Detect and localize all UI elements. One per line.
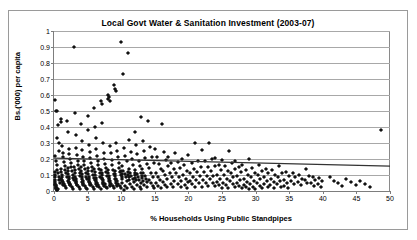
y-tick-label: 0 [46,188,50,195]
gridline [54,95,390,96]
scatter-point [101,141,105,145]
gridline [54,127,390,128]
scatter-point [363,182,367,186]
scatter-point [358,179,362,183]
gridline [54,31,390,32]
x-tick-label: 40 [319,195,327,202]
scatter-point [298,182,302,186]
x-tick-label: 0 [52,195,56,202]
x-tick-label: 15 [151,195,159,202]
chart-title: Local Govt Water & Sanitation Investment… [9,18,407,28]
x-tick-mark [88,191,89,194]
scatter-point [378,128,382,132]
scatter-point [102,157,106,161]
scatter-point [137,158,141,162]
y-tick-label: 1 [46,28,50,35]
x-axis-title: % Households Using Public Standpipes [53,214,389,223]
scatter-point [260,186,264,190]
scatter-point [139,187,143,191]
scatter-point [85,114,89,118]
scatter-point [100,102,104,106]
scatter-point [196,159,200,163]
scatter-point [171,185,175,189]
y-tick-mark [51,79,54,80]
x-tick-label: 50 [386,195,394,202]
scatter-point [206,165,210,169]
scatter-point [202,170,206,174]
scatter-point [146,118,150,122]
scatter-point [109,151,113,155]
x-tick-label: 30 [252,195,260,202]
scatter-point [100,121,104,125]
x-tick-mark [323,191,324,194]
scatter-point [132,187,136,191]
x-tick-mark [390,191,391,194]
x-tick-mark [289,191,290,194]
y-tick-label: 0.9 [40,44,50,51]
scatter-point [220,186,224,190]
x-tick-label: 5 [86,195,90,202]
scatter-point [145,185,149,189]
scatter-point [344,177,348,181]
scatter-point [218,176,222,180]
scatter-point [75,153,79,157]
scatter-point [239,170,243,174]
scatter-point [122,146,126,150]
scatter-point [124,159,128,163]
scatter-point [139,115,143,119]
y-axis-title: Bs.('000) per capita [13,111,22,121]
scatter-point [142,149,146,153]
scatter-point [164,176,168,180]
scatter-point [227,149,231,153]
y-tick-mark [51,63,54,64]
x-tick-mark [54,191,55,194]
scatter-point [277,164,281,168]
scatter-point [320,179,324,183]
scatter-point [339,184,343,188]
scatter-point [173,151,177,155]
scatter-point [92,187,96,191]
gridline [54,47,390,48]
gridline [54,111,390,112]
scatter-point [60,144,64,148]
y-tick-label: 0.5 [40,108,50,115]
scatter-point [114,141,118,145]
scatter-point [73,133,77,137]
scatter-point [284,170,288,174]
y-tick-mark [51,31,54,32]
x-tick-mark [121,191,122,194]
scatter-point [165,185,169,189]
scatter-point [286,174,290,178]
scatter-point [249,175,253,179]
scatter-point [258,177,262,181]
scatter-point [115,149,119,153]
scatter-point [108,98,112,102]
scatter-point [92,106,96,110]
scatter-point [130,157,134,161]
x-tick-label: 45 [352,195,360,202]
gridline [54,79,390,80]
scatter-point [95,154,99,158]
scatter-point [133,130,137,134]
scatter-point [206,141,210,145]
scatter-point [135,152,139,156]
scatter-point [53,154,57,158]
scatter-point [78,186,82,190]
scatter-point [64,186,68,190]
y-tick-mark [51,143,54,144]
scatter-point [243,168,247,172]
scatter-point [131,162,135,166]
scatter-point [93,125,97,129]
scatter-point [53,98,57,102]
scatter-point [253,187,257,191]
scatter-point [114,89,118,93]
y-tick-label: 0.7 [40,76,50,83]
scatter-point [182,163,186,167]
scatter-point [180,157,184,161]
scatter-point [193,185,197,189]
scatter-point [80,148,84,152]
scatter-point [59,120,63,124]
scatter-point [217,162,221,166]
x-tick-label: 10 [117,195,125,202]
scatter-point [66,130,70,134]
